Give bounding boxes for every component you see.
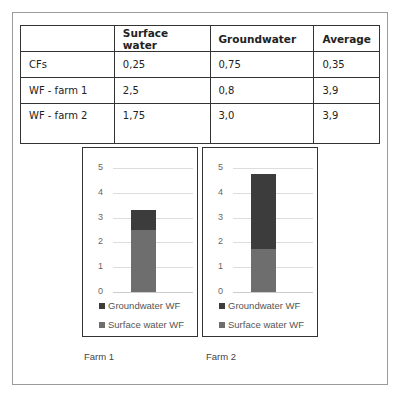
legend-surface: Surface water WF: [99, 319, 184, 330]
plot-area: 5 4 3 2 1 0: [113, 168, 193, 292]
plot-area: 5 4 3 2 1 0: [233, 168, 313, 292]
cell-ground: 0,75: [210, 52, 314, 78]
y-tick: 2: [211, 236, 223, 246]
caption-farm2: Farm 2: [206, 351, 236, 362]
axis-line: [113, 292, 193, 293]
cell-average: 3,9: [314, 104, 380, 144]
cell-surface: 2,5: [114, 78, 210, 104]
row-label: CFs: [21, 52, 115, 78]
row-label: WF - farm 1: [21, 78, 115, 104]
y-tick: 4: [91, 187, 103, 197]
header-cell: Groundwater: [210, 26, 314, 52]
legend-groundwater: Groundwater WF: [99, 300, 180, 311]
surface-water-bar: [251, 249, 276, 292]
surface-water-bar: [131, 230, 156, 292]
y-tick: 1: [211, 261, 223, 271]
legend-groundwater: Groundwater WF: [219, 300, 300, 311]
cell-surface: 0,25: [114, 52, 210, 78]
legend-surface: Surface water WF: [219, 319, 304, 330]
legend-label: Groundwater WF: [228, 300, 300, 311]
legend-label: Groundwater WF: [108, 300, 180, 311]
caption-farm1: Farm 1: [84, 351, 114, 362]
legend-swatch: [219, 303, 225, 309]
gridline: [233, 168, 313, 169]
cell-average: 0,35: [314, 52, 380, 78]
legend-label: Surface water WF: [108, 319, 184, 330]
legend-swatch: [99, 303, 105, 309]
y-tick: 3: [211, 212, 223, 222]
groundwater-bar: [251, 174, 276, 249]
table-row: CFs 0,25 0,75 0,35: [21, 52, 380, 78]
y-tick: 5: [91, 162, 103, 172]
groundwater-bar: [131, 210, 156, 230]
y-tick: 4: [211, 187, 223, 197]
table-header-row: Surface water Groundwater Average: [21, 26, 380, 52]
header-cell: Surface water: [114, 26, 210, 52]
axis-line: [233, 292, 313, 293]
gridline: [113, 168, 193, 169]
water-footprint-table: Surface water Groundwater Average CFs 0,…: [20, 25, 380, 144]
gridline: [113, 193, 193, 194]
cell-ground: 0,8: [210, 78, 314, 104]
y-tick: 2: [91, 236, 103, 246]
header-cell: Average: [314, 26, 380, 52]
farm1-chart: 5 4 3 2 1 0 Groundwater WF Surface water…: [82, 147, 198, 337]
y-tick: 0: [211, 286, 223, 296]
cell-average: 3,9: [314, 78, 380, 104]
cell-ground: 3,0: [210, 104, 314, 144]
y-tick: 5: [211, 162, 223, 172]
row-label: WF - farm 2: [21, 104, 115, 144]
cell-surface: 1,75: [114, 104, 210, 144]
farm2-chart: 5 4 3 2 1 0 Groundwater WF Surface water…: [202, 147, 318, 337]
legend-swatch: [99, 322, 105, 328]
legend-label: Surface water WF: [228, 319, 304, 330]
y-tick: 0: [91, 286, 103, 296]
header-cell: [21, 26, 115, 52]
table-row: WF - farm 2 1,75 3,0 3,9: [21, 104, 380, 144]
y-tick: 3: [91, 212, 103, 222]
table-row: WF - farm 1 2,5 0,8 3,9: [21, 78, 380, 104]
legend-swatch: [219, 322, 225, 328]
y-tick: 1: [91, 261, 103, 271]
